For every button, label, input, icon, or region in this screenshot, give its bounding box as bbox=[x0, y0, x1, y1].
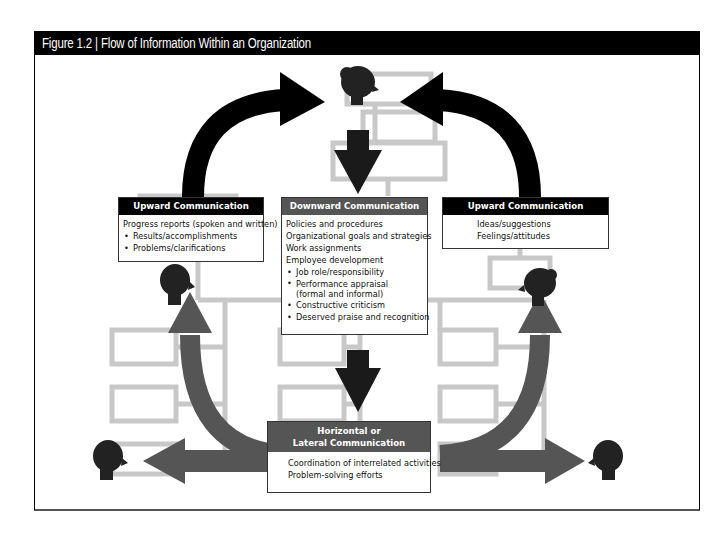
box-header-line-1: Horizontal or bbox=[268, 425, 430, 437]
male-head-icon-bottom-right bbox=[588, 440, 623, 480]
box-line: Organizational goals and strategies bbox=[286, 230, 423, 242]
box-header: Upward Communication bbox=[443, 198, 608, 215]
lateral-curve-right bbox=[440, 335, 540, 455]
upward-arrowhead-right bbox=[400, 72, 443, 126]
box-header-line-2: Lateral Communication bbox=[268, 437, 430, 449]
box-line: Employee development bbox=[286, 254, 423, 266]
upward-arrow-right bbox=[438, 100, 530, 197]
box-header: Upward Communication bbox=[119, 198, 263, 215]
box-line: Progress reports (spoken and written) bbox=[123, 218, 259, 230]
box-line: Results/accomplishments bbox=[123, 230, 259, 242]
box-line: Work assignments bbox=[286, 242, 423, 254]
box-line: Policies and procedures bbox=[286, 218, 423, 230]
box-line: Deserved praise and recognition bbox=[286, 311, 423, 323]
box-line: (formal and informal) bbox=[286, 289, 423, 299]
upward-communication-box-right: Upward Communication Ideas/suggestions F… bbox=[442, 197, 609, 249]
box-line: Performance appraisal bbox=[286, 278, 423, 289]
downward-arrowhead-top bbox=[334, 150, 382, 194]
box-line: Problems/clarifications bbox=[123, 242, 259, 254]
downward-communication-box: Downward Communication Policies and proc… bbox=[281, 197, 428, 335]
horizontal-communication-box: Horizontal or Lateral Communication Coor… bbox=[267, 421, 431, 493]
box-line: Constructive criticism bbox=[286, 299, 423, 311]
horizontal-arrowhead-right bbox=[545, 438, 585, 484]
upward-arrowhead-left bbox=[280, 72, 325, 126]
upward-communication-box-left: Upward Communication Progress reports (s… bbox=[118, 197, 264, 262]
box-header: Horizontal or Lateral Communication bbox=[268, 422, 430, 452]
box-line: Job role/responsibility bbox=[286, 266, 423, 278]
box-line: Feelings/attitudes bbox=[477, 230, 604, 242]
upward-arrow-left bbox=[193, 100, 285, 197]
box-line: Ideas/suggestions bbox=[477, 218, 604, 230]
box-header: Downward Communication bbox=[282, 198, 427, 215]
box-line: Problem-solving efforts bbox=[288, 469, 426, 481]
box-line: Coordination of interrelated activities bbox=[288, 457, 426, 469]
